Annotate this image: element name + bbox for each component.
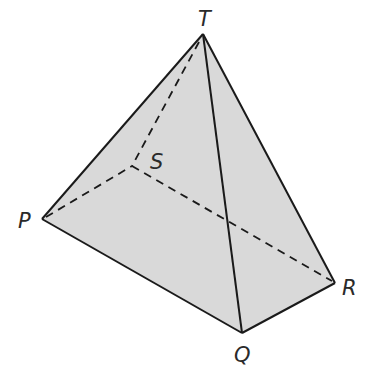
tetrahedron-diagram: T S P R Q xyxy=(0,0,374,375)
vertex-label-R: R xyxy=(342,276,357,300)
vertex-label-T: T xyxy=(198,7,213,31)
vertex-label-S: S xyxy=(150,150,163,174)
vertex-label-P: P xyxy=(18,209,31,233)
vertex-label-Q: Q xyxy=(234,343,251,367)
